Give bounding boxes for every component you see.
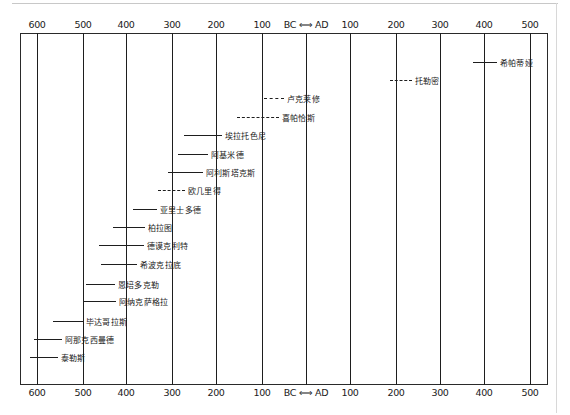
bottom-tick-label: 500 (74, 387, 91, 398)
figure-name-label: 托勒密 (415, 75, 440, 86)
figure-name-label: 埃拉托色尼 (225, 130, 266, 141)
lifespan-bar (473, 62, 497, 63)
lifespan-bar (264, 98, 284, 99)
top-tick-label: 300 (163, 19, 180, 30)
figure-name-label: 阿那克西曼德 (65, 334, 114, 345)
bottom-tick-label: 300 (163, 387, 180, 398)
lifespan-bar (30, 357, 58, 358)
bc-ad-divider-line (306, 33, 307, 385)
bottom-tick-label: 600 (28, 387, 45, 398)
figure-name-label: 亚里士多德 (160, 204, 201, 215)
gridline-bc-200 (216, 33, 217, 385)
figure-name-label: 喜帕恰斯 (282, 112, 315, 123)
figure-name-label: 柏拉图 (148, 222, 173, 233)
bottom-tick-label: 200 (207, 387, 224, 398)
top-tick-label: 100 (253, 19, 270, 30)
bottom-tick-label: 300 (431, 387, 448, 398)
bottom-tick-label: 400 (475, 387, 492, 398)
gridline-bc-500 (83, 33, 84, 385)
gridline-bc-400 (126, 33, 127, 385)
gridline-bc-100 (262, 33, 263, 385)
top-tick-label: 100 (341, 19, 358, 30)
figure-name-label: 希波克拉底 (140, 259, 181, 270)
figure-name-label: 德谟克利特 (147, 240, 188, 251)
gridline-bc-600 (37, 33, 38, 385)
bottom-tick-label: 100 (253, 387, 270, 398)
lifespan-bar (158, 190, 185, 191)
lifespan-bar (237, 117, 279, 118)
figure-name-label: 卢克莱修 (287, 93, 320, 104)
gridline-ad-300 (440, 33, 441, 385)
figure-name-label: 阿纳克萨格拉 (119, 296, 168, 307)
top-tick-label: 400 (475, 19, 492, 30)
bottom-tick-label: 100 (341, 387, 358, 398)
lifespan-bar (86, 284, 115, 285)
lifespan-bar (34, 339, 62, 340)
figure-name-label: 毕达哥拉斯 (86, 316, 127, 327)
top-tick-label: 500 (74, 19, 91, 30)
lifespan-bar (99, 245, 144, 246)
lifespan-bar (113, 227, 145, 228)
lifespan-bar (101, 264, 137, 265)
figure-name-label: 恩培多克勒 (118, 279, 159, 290)
top-tick-label: 400 (117, 19, 134, 30)
figure-name-label: 欧几里得 (188, 185, 221, 196)
lifespan-bar (168, 172, 203, 173)
figure-name-label: 泰勒斯 (61, 352, 86, 363)
top-tick-label: 500 (521, 19, 538, 30)
bottom-tick-label: 400 (117, 387, 134, 398)
lifespan-bar (53, 321, 83, 322)
gridline-ad-400 (484, 33, 485, 385)
figure-name-label: 希帕蒂娅 (500, 57, 533, 68)
page-right-rule (556, 3, 557, 413)
lifespan-bar (184, 135, 222, 136)
lifespan-bar (83, 301, 116, 302)
gridline-ad-500 (530, 33, 531, 385)
top-tick-label: 600 (28, 19, 45, 30)
gridline-ad-200 (396, 33, 397, 385)
figure-name-label: 阿基米德 (211, 149, 244, 160)
lifespan-bar (178, 154, 208, 155)
gridline-ad-100 (350, 33, 351, 385)
bottom-tick-label: BC ⟺ AD (284, 387, 328, 398)
top-tick-label: 200 (387, 19, 404, 30)
figure-name-label: 阿利斯塔克斯 (206, 167, 255, 178)
top-tick-label: 200 (207, 19, 224, 30)
timeline-frame (20, 33, 548, 385)
top-tick-label: 300 (431, 19, 448, 30)
lifespan-bar (390, 80, 412, 81)
bottom-tick-label: 500 (521, 387, 538, 398)
bottom-tick-label: 200 (387, 387, 404, 398)
lifespan-bar (133, 209, 157, 210)
page-top-rule (12, 3, 558, 4)
top-tick-label: BC ⟺ AD (284, 19, 328, 30)
